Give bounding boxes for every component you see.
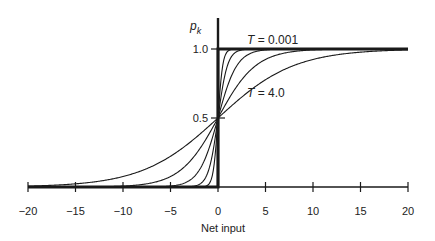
x-tick-label: 0: [215, 205, 221, 217]
annotation-t-4: T = 4.0: [247, 86, 285, 100]
x-axis-label: Net input: [201, 222, 245, 234]
sigmoid-chart: −20−15−10−5051015200.51.0Net inputpkT = …: [0, 0, 435, 241]
annotation-t-0001: T = 0.001: [247, 33, 298, 47]
y-tick-label: 1.0: [193, 43, 208, 55]
y-tick-label: 0.5: [193, 112, 208, 124]
x-tick-label: 5: [262, 205, 268, 217]
x-tick-label: −10: [114, 205, 133, 217]
x-tick-label: 15: [354, 205, 366, 217]
x-tick-label: 20: [402, 205, 414, 217]
axes: [28, 18, 408, 192]
x-tick-label: −15: [66, 205, 85, 217]
x-tick-label: −5: [164, 205, 177, 217]
x-tick-label: −20: [19, 205, 38, 217]
y-axis-label: pk: [189, 19, 202, 36]
x-tick-label: 10: [307, 205, 319, 217]
